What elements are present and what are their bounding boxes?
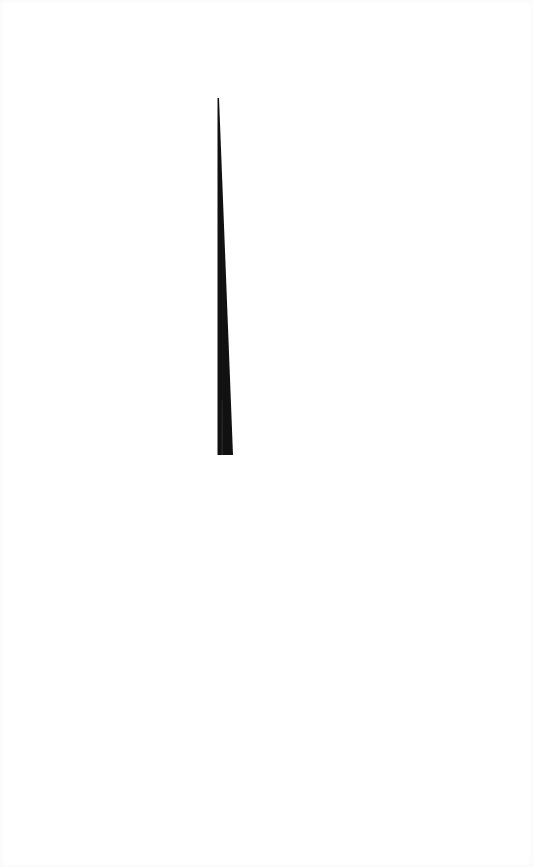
spike-body xyxy=(218,98,234,455)
spike-shape xyxy=(0,0,533,867)
blank-canvas xyxy=(0,0,533,867)
